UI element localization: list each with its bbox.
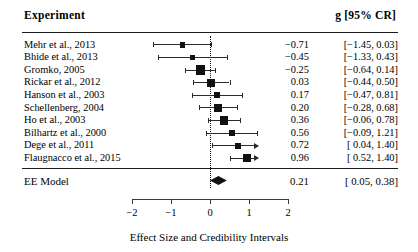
column-header-effect-size: g [95% CR] bbox=[335, 9, 396, 21]
study-estimate: 0.36 bbox=[262, 114, 309, 127]
study-estimate: 0.72 bbox=[262, 139, 309, 152]
axis-tick bbox=[249, 199, 250, 204]
axis-tick-label: 2 bbox=[273, 207, 303, 218]
study-estimate: −0.25 bbox=[262, 64, 309, 77]
study-credibility-interval: [−0.64, 0.14] bbox=[313, 64, 398, 77]
study-label: Mehr et al., 2013 bbox=[24, 39, 95, 52]
study-estimate: 0.56 bbox=[262, 127, 309, 140]
axis-tick-label: 0 bbox=[195, 207, 225, 218]
summary-credibility-interval: [ 0.05, 0.38] bbox=[311, 175, 398, 187]
study-estimate: 0.96 bbox=[262, 152, 309, 165]
table-row: Mehr et al., 2013−0.71[−1.45, 0.03] bbox=[0, 39, 418, 52]
axis-tick bbox=[132, 199, 133, 204]
summary-rule bbox=[22, 168, 398, 169]
summary-label: EE Model bbox=[24, 175, 69, 187]
study-credibility-interval: [−0.47, 0.81] bbox=[313, 89, 398, 102]
study-credibility-interval: [−0.44, 0.50] bbox=[313, 76, 398, 89]
table-row: Bilhartz et al., 20000.56[−0.09, 1.21] bbox=[0, 127, 418, 140]
column-header-experiment: Experiment bbox=[24, 9, 85, 21]
table-row: Hanson et al., 20030.17[−0.47, 0.81] bbox=[0, 89, 418, 102]
axis-tick bbox=[288, 199, 289, 204]
axis-tick bbox=[210, 199, 211, 204]
study-credibility-interval: [−0.06, 0.78] bbox=[313, 114, 398, 127]
table-row: Flaugnacco et al., 20150.96[ 0.52, 1.40] bbox=[0, 152, 418, 165]
table-row: Schellenberg, 20040.20[−0.28, 0.68] bbox=[0, 102, 418, 115]
study-credibility-interval: [−0.28, 0.68] bbox=[313, 102, 398, 115]
study-credibility-interval: [ 0.04, 1.40] bbox=[313, 139, 398, 152]
study-label: Flaugnacco et al., 2015 bbox=[24, 152, 121, 165]
study-label: Bilhartz et al., 2000 bbox=[24, 127, 106, 140]
forest-plot-figure: Experiment g [95% CR] Mehr et al., 2013−… bbox=[0, 0, 418, 252]
summary-estimate: 0.21 bbox=[258, 175, 309, 187]
study-credibility-interval: [−0.09, 1.21] bbox=[313, 127, 398, 140]
study-estimate: −0.71 bbox=[262, 39, 309, 52]
header-rule bbox=[22, 32, 398, 33]
study-credibility-interval: [ 0.52, 1.40] bbox=[313, 152, 398, 165]
axis-tick-label: −2 bbox=[117, 207, 147, 218]
summary-diamond bbox=[210, 176, 227, 185]
study-label: Rickar et al., 2012 bbox=[24, 76, 100, 89]
axis-tick bbox=[171, 199, 172, 204]
study-estimate: 0.03 bbox=[262, 76, 309, 89]
study-credibility-interval: [−1.33, 0.43] bbox=[313, 51, 398, 64]
study-label: Schellenberg, 2004 bbox=[24, 102, 104, 115]
table-row: Dege et al., 20110.72[ 0.04, 1.40] bbox=[0, 139, 418, 152]
study-estimate: −0.45 bbox=[262, 51, 309, 64]
study-label: Ho et al., 2003 bbox=[24, 114, 85, 127]
study-label: Bhide et al., 2013 bbox=[24, 51, 98, 64]
x-axis-title: Effect Size and Credibility Intervals bbox=[0, 231, 418, 243]
study-label: Hanson et al., 2003 bbox=[24, 89, 105, 102]
table-row: Bhide et al., 2013−0.45[−1.33, 0.43] bbox=[0, 51, 418, 64]
study-label: Gromko, 2005 bbox=[24, 64, 85, 77]
study-estimate: 0.17 bbox=[262, 89, 309, 102]
table-row: Rickar et al., 20120.03[−0.44, 0.50] bbox=[0, 76, 418, 89]
axis-tick-label: −1 bbox=[156, 207, 186, 218]
table-row: Gromko, 2005−0.25[−0.64, 0.14] bbox=[0, 64, 418, 77]
axis-tick-label: 1 bbox=[234, 207, 264, 218]
study-credibility-interval: [−1.45, 0.03] bbox=[313, 39, 398, 52]
table-row: Ho et al., 20030.36[−0.06, 0.78] bbox=[0, 114, 418, 127]
study-estimate: 0.20 bbox=[262, 102, 309, 115]
study-label: Dege et al., 2011 bbox=[24, 139, 94, 152]
